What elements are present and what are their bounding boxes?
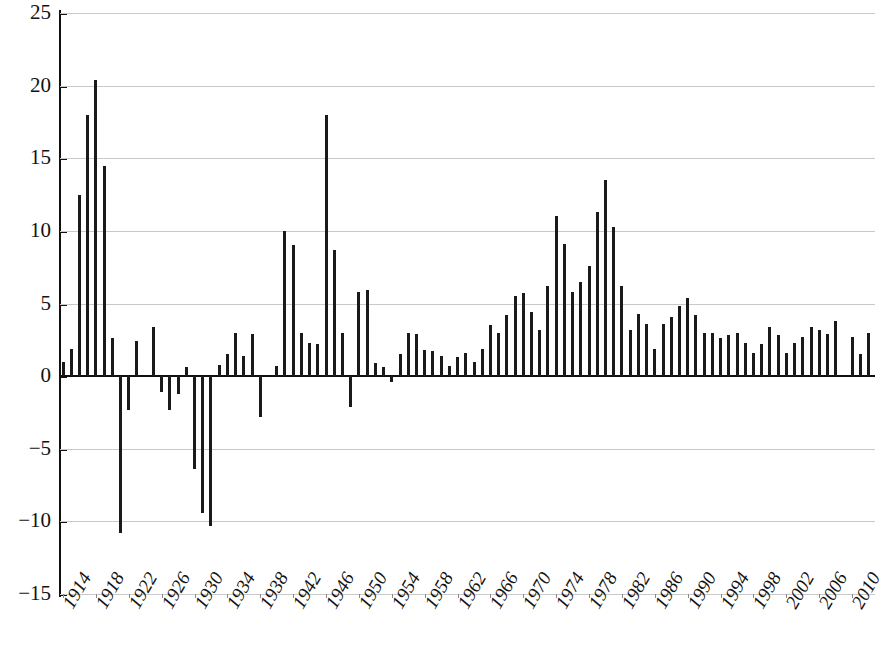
- bar: [152, 327, 155, 376]
- bar: [514, 296, 517, 376]
- bar: [456, 357, 459, 376]
- bar: [694, 315, 697, 376]
- gridline: [60, 521, 875, 522]
- y-tick-label: −5: [29, 438, 51, 459]
- bar: [226, 354, 229, 376]
- y-tick-label: 10: [30, 220, 51, 241]
- bar: [497, 333, 500, 377]
- bar: [185, 367, 188, 376]
- bar: [62, 362, 65, 377]
- bar: [736, 333, 739, 377]
- bar: [382, 367, 385, 376]
- bar: [333, 250, 336, 376]
- bar: [596, 212, 599, 376]
- bar: [78, 195, 81, 377]
- bar: [793, 343, 796, 376]
- bar: [218, 365, 221, 377]
- bar: [440, 356, 443, 376]
- bar: [177, 376, 180, 393]
- bar: [390, 376, 393, 382]
- bar: [703, 333, 706, 377]
- bar: [727, 335, 730, 376]
- bar: [752, 353, 755, 376]
- bar: [546, 286, 549, 376]
- bar: [94, 80, 97, 376]
- bar: [719, 338, 722, 376]
- gridline: [60, 158, 875, 159]
- bar: [489, 325, 492, 376]
- bar: [168, 376, 171, 409]
- bar: [571, 292, 574, 376]
- bar: [620, 286, 623, 376]
- bar: [473, 362, 476, 377]
- bar: [119, 376, 122, 533]
- bar: [70, 349, 73, 377]
- bar: [366, 290, 369, 376]
- bar: [604, 180, 607, 376]
- bar: [851, 337, 854, 376]
- bar: [579, 282, 582, 376]
- bar: [111, 338, 114, 376]
- bar: [653, 349, 656, 377]
- bar: [637, 314, 640, 376]
- bar: [275, 366, 278, 376]
- bar: [777, 335, 780, 376]
- bar: [768, 327, 771, 376]
- bar: [810, 327, 813, 376]
- plot-area: [60, 13, 875, 594]
- gridline: [60, 449, 875, 450]
- bar: [135, 341, 138, 376]
- bar: [325, 115, 328, 376]
- bar: [259, 376, 262, 417]
- bar: [826, 334, 829, 376]
- bar: [357, 292, 360, 376]
- bar: [234, 333, 237, 377]
- bar: [242, 356, 245, 376]
- bar: [415, 334, 418, 376]
- bar: [678, 306, 681, 376]
- bar: [341, 333, 344, 377]
- bar: [300, 333, 303, 377]
- bar: [399, 354, 402, 376]
- y-tick-label: 20: [30, 75, 51, 96]
- y-tick-label: 25: [30, 2, 51, 23]
- bar: [859, 354, 862, 376]
- bar: [103, 166, 106, 377]
- y-tick-label: −10: [18, 510, 51, 531]
- bar: [760, 344, 763, 376]
- bar: [645, 324, 648, 376]
- bar: [407, 333, 410, 377]
- bar: [481, 349, 484, 377]
- bar: [801, 337, 804, 376]
- y-tick-label: 0: [41, 365, 52, 386]
- gridline: [60, 304, 875, 305]
- bar: [818, 330, 821, 376]
- bar: [448, 366, 451, 376]
- bar: [251, 334, 254, 376]
- bar: [127, 376, 130, 409]
- bar: [530, 312, 533, 376]
- bar: [292, 245, 295, 376]
- bar: [464, 353, 467, 376]
- bar: [867, 333, 870, 377]
- bar: [555, 216, 558, 376]
- bar: [563, 244, 566, 376]
- y-tick-label: 15: [30, 147, 51, 168]
- bar: [160, 376, 163, 392]
- gridline: [60, 13, 875, 14]
- bar: [431, 351, 434, 376]
- bar: [744, 343, 747, 376]
- bar: [505, 315, 508, 376]
- bar: [686, 298, 689, 376]
- bar: [283, 231, 286, 376]
- bar: [538, 330, 541, 376]
- bar: [588, 266, 591, 376]
- bar: [349, 376, 352, 407]
- gridline: [60, 231, 875, 232]
- bar: [193, 376, 196, 469]
- bar: [374, 363, 377, 376]
- bar: [522, 293, 525, 376]
- bar: [209, 376, 212, 526]
- bar: [308, 343, 311, 376]
- bar: [201, 376, 204, 513]
